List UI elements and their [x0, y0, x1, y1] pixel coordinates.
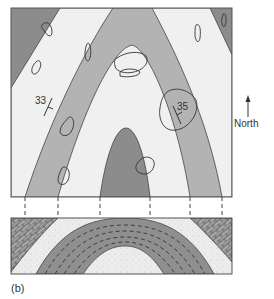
- north-label: North: [234, 118, 258, 129]
- dip-label-33: 33: [35, 95, 47, 106]
- panel-label: (b): [11, 282, 24, 294]
- north-arrow-icon: [246, 95, 251, 117]
- dip-label-35: 35: [177, 101, 189, 112]
- geologic-fold-figure: 33 35 North (b): [0, 0, 274, 299]
- projection-lines: [25, 197, 222, 218]
- cross-section: [11, 218, 232, 274]
